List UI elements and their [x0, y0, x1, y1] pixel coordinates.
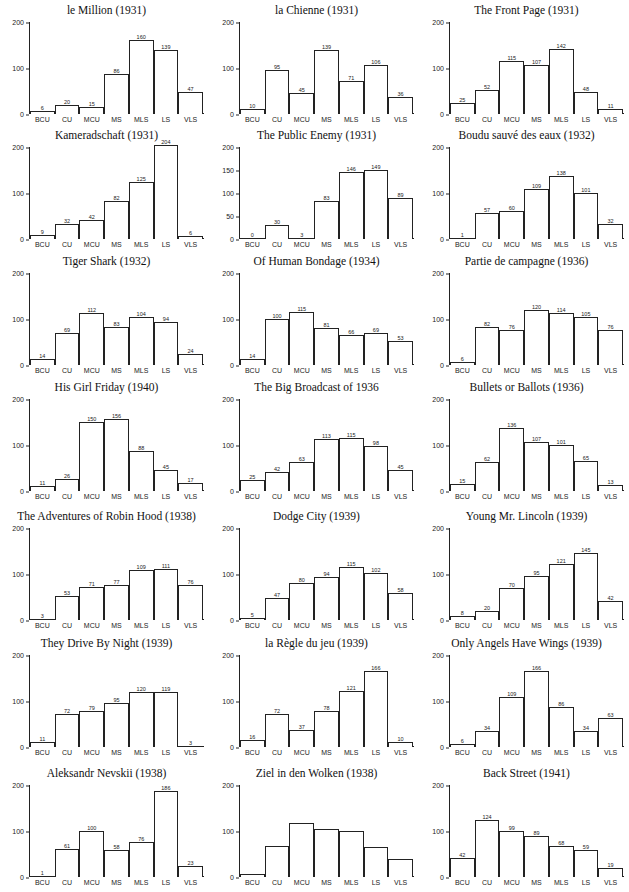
chart-grid: le Million (1931)01002006BCU20CU15MCU86M… [0, 0, 629, 892]
x-tick-label: BCU [240, 367, 265, 374]
bar-value-label: 11 [599, 103, 622, 109]
x-tick-label: LS [574, 367, 599, 374]
bar-value-label: 95 [525, 570, 548, 576]
bar-value-label: 71 [340, 75, 363, 81]
x-tick-label: VLS [598, 367, 623, 374]
chart-panel: The Adventures of Robin Hood (1938)01002… [2, 506, 211, 633]
x-tick-label: MLS [129, 879, 154, 886]
x-tick-label: MS [104, 493, 129, 500]
x-tick-label: MCU [79, 493, 104, 500]
bar-value-label: 80 [290, 577, 313, 583]
y-tick-label: 100 [214, 65, 234, 72]
x-tick-label: MCU [499, 879, 524, 886]
chart-panel: la Règle du jeu (1939)010020016BCU72CU37… [212, 633, 421, 760]
x-tick-label: VLS [598, 241, 623, 248]
bar-value-label: 101 [575, 187, 598, 193]
bar-vls: 17 [178, 483, 203, 491]
bar-ls: 69 [364, 333, 389, 365]
bar-value-label: 88 [130, 445, 153, 451]
x-tick-label: VLS [178, 622, 203, 629]
y-tick-label: 200 [4, 525, 24, 532]
bar-value-label: 11 [31, 736, 54, 742]
y-tick-label: 0 [214, 488, 234, 495]
bar-value-label: 107 [525, 436, 548, 442]
y-axis [29, 528, 30, 620]
bar-cu: 20 [475, 611, 500, 620]
bar-value-label: 17 [179, 477, 202, 483]
bar-value-label: 82 [105, 195, 128, 201]
y-axis [239, 655, 240, 747]
chart-title: Back Street (1941) [422, 767, 629, 779]
bar-bcu: 16 [240, 740, 265, 747]
y-tick-label: 150 [214, 167, 234, 174]
bar-value-label: 166 [365, 665, 388, 671]
bar-value-label: 106 [365, 59, 388, 65]
bar-cu: 61 [55, 849, 80, 877]
bar-value-label: 42 [266, 466, 289, 472]
x-tick-label: CU [55, 622, 80, 629]
plot-area: 01002006BCU82CU76MCU120MS114MLS105LS76VL… [449, 273, 624, 365]
bar-value-label: 68 [550, 840, 573, 846]
bar-value-label: 98 [365, 440, 388, 446]
x-tick-label: LS [154, 241, 179, 248]
plot-area: 010020015BCU62CU136MCU107MS101MLS65LS13V… [449, 399, 624, 491]
bar-vls: 76 [598, 330, 623, 365]
bar-value-label: 47 [266, 592, 289, 598]
x-tick-label: MS [314, 749, 339, 756]
bar-ls: 166 [364, 671, 389, 747]
bar-value-label: 99 [500, 825, 523, 831]
y-axis [29, 399, 30, 491]
bar-mcu: 60 [499, 211, 524, 239]
bar-value-label: 15 [80, 101, 103, 107]
x-tick-label: LS [154, 493, 179, 500]
x-tick-label: MS [524, 622, 549, 629]
x-tick-label: MLS [549, 367, 574, 374]
bar-value-label: 42 [80, 214, 103, 220]
bar-value-label: 70 [500, 582, 523, 588]
x-tick-label: BCU [30, 367, 55, 374]
y-axis [29, 273, 30, 365]
bar-bcu: 42 [450, 858, 475, 877]
x-tick-label: LS [154, 622, 179, 629]
bar-value-label: 119 [155, 686, 178, 692]
chart-title: Aleksandr Nevskii (1938) [2, 767, 211, 779]
y-tick-label: 200 [214, 525, 234, 532]
x-tick-label: LS [574, 622, 599, 629]
bar-mls: 115 [339, 567, 364, 620]
bar-mls: 66 [339, 335, 364, 365]
y-tick-label: 200 [424, 652, 444, 659]
y-tick-label: 200 [424, 270, 444, 277]
bar-bcu: 15 [450, 484, 475, 491]
bar-value-label: 115 [500, 55, 523, 61]
x-tick-label: MLS [549, 879, 574, 886]
chart-title: Ziel in den Wolken (1938) [212, 767, 421, 779]
x-tick-label: MCU [289, 879, 314, 886]
bar-value-label: 139 [315, 44, 338, 50]
chart-panel: Of Human Bondage (1934)010020014BCU100CU… [212, 251, 421, 378]
x-tick-label: BCU [450, 879, 475, 886]
bar-cu: 20 [55, 105, 80, 114]
bar-value-label: 76 [179, 579, 202, 585]
x-tick-label: BCU [30, 749, 55, 756]
bar-mls: 138 [549, 176, 574, 239]
bar-value-label: 76 [130, 836, 153, 842]
bar-mcu: 150 [79, 422, 104, 491]
y-axis [29, 785, 30, 877]
y-tick-label: 100 [424, 698, 444, 705]
x-tick-label: MCU [499, 367, 524, 374]
chart-title: Boudu sauvé des eaux (1932) [422, 129, 629, 141]
bar-value-label: 86 [550, 701, 573, 707]
bar-mls: 68 [549, 846, 574, 877]
bar-bcu: 10 [240, 109, 265, 114]
bar-value-label: 146 [340, 166, 363, 172]
y-tick-label: 200 [214, 270, 234, 277]
x-tick-label: LS [154, 116, 179, 123]
y-tick-label: 100 [424, 190, 444, 197]
bar-cu: 52 [475, 90, 500, 114]
x-tick-label: MS [314, 241, 339, 248]
bar-value-label: 19 [599, 862, 622, 868]
x-tick-label: VLS [598, 749, 623, 756]
x-tick-label: BCU [450, 749, 475, 756]
bar-value-label: 34 [575, 725, 598, 731]
x-tick-label: MLS [339, 241, 364, 248]
